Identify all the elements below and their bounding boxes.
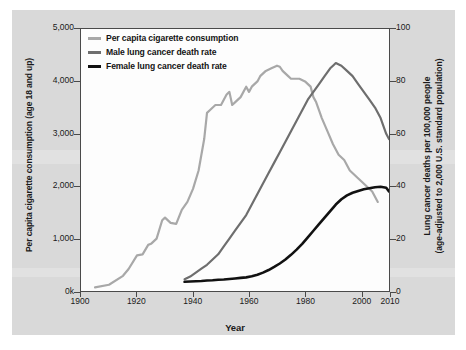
legend-item-label: Per capita cigarette consumption (106, 33, 238, 43)
legend-item[interactable]: Female lung cancer death rate (88, 59, 238, 73)
x-axis-tick-label: 1980 (285, 296, 325, 306)
legend-item-label: Male lung cancer death rate (106, 47, 217, 57)
x-axis-tick-label: 1900 (60, 296, 100, 306)
y-axis-right-title: Lung cancer deaths per 100,000 people (a… (397, 28, 457, 292)
y-axis-right-tick-label: 80 (396, 75, 436, 85)
x-axis-tick-mark (390, 292, 391, 297)
y-axis-right-tick-mark (390, 134, 396, 135)
y-axis-right-title-line1: Lung cancer deaths per 100,000 people (422, 24, 432, 288)
chart-figure: Per capita cigarette consumption (age 18… (0, 0, 466, 350)
x-axis-tick-mark (193, 292, 194, 297)
legend-item-label: Female lung cancer death rate (106, 61, 227, 71)
line-swatch-icon (88, 65, 101, 68)
x-axis-tick-mark (362, 292, 363, 297)
y-axis-right-title-line2: (age-adjusted to 2,000 U.S. standard pop… (434, 24, 444, 288)
line-swatch-icon (88, 37, 101, 40)
series-line-cigarette-consumption (95, 66, 378, 288)
y-axis-right-tick-mark (390, 239, 396, 240)
x-axis-tick-label: 1920 (116, 296, 156, 306)
x-axis-tick-label: 1940 (173, 296, 213, 306)
x-axis-tick-mark (136, 292, 137, 297)
y-axis-right-tick-label: 20 (396, 233, 436, 243)
y-axis-left-tick-label: 0k (14, 286, 74, 296)
x-axis-tick-mark (80, 292, 81, 297)
series-line-male-death-rate (185, 63, 389, 279)
y-axis-right-tick-label: 60 (396, 128, 436, 138)
y-axis-left-tick-label: 1,000 (14, 233, 74, 243)
line-swatch-icon (88, 51, 101, 54)
legend-item[interactable]: Per capita cigarette consumption (88, 31, 238, 45)
y-axis-left-tick-label: 4,000 (14, 75, 74, 85)
x-axis-tick-label: 1960 (229, 296, 269, 306)
y-axis-right-tick-label: 40 (396, 180, 436, 190)
x-axis-tick-mark (305, 292, 306, 297)
y-axis-left-tick-label: 2,000 (14, 180, 74, 190)
y-axis-left-tick-label: 3,000 (14, 128, 74, 138)
y-axis-right-tick-mark (390, 186, 396, 187)
legend-item[interactable]: Male lung cancer death rate (88, 45, 238, 59)
y-axis-right-tick-mark (390, 28, 396, 29)
y-axis-right-tick-label: 0 (396, 286, 436, 296)
x-axis-title: Year (80, 322, 390, 333)
series-line-female-death-rate (185, 187, 389, 282)
y-axis-right-tick-label: 100 (396, 22, 436, 32)
chart-legend: Per capita cigarette consumptionMale lun… (88, 31, 238, 73)
x-axis-tick-label: 2010 (370, 296, 410, 306)
y-axis-right-tick-mark (390, 81, 396, 82)
y-axis-left-tick-label: 5,000 (14, 22, 74, 32)
x-axis-tick-mark (249, 292, 250, 297)
